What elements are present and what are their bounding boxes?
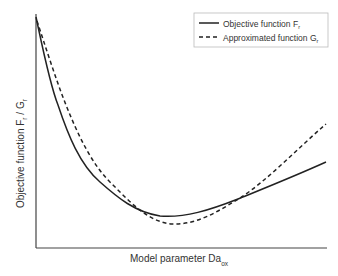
x-axis-label: Model parameter Daox [130,253,229,267]
legend-item-objective: Objective function Fr [223,19,300,30]
chart: Objective function Fr Approximated funct… [0,0,338,276]
legend: Objective function Fr Approximated funct… [194,13,328,47]
series-approximated-function [37,21,326,224]
legend-item-approximated: Approximated function Gr [223,33,319,44]
y-axis-label: Objective function Fr / Gr [15,98,28,208]
